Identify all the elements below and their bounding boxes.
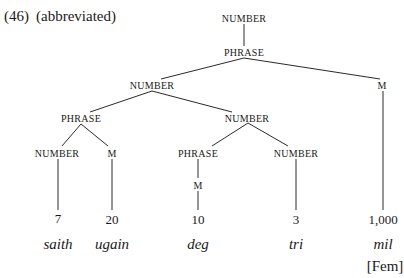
- node-m-right: M: [377, 80, 386, 91]
- leaf-word: tri: [289, 236, 303, 253]
- leaf-numeral: 10: [192, 212, 205, 228]
- leaf-word: ugain: [95, 236, 129, 253]
- node-m-mid: M: [193, 180, 202, 191]
- node-number-ll: NUMBER: [35, 148, 80, 159]
- node-root-number: NUMBER: [222, 13, 267, 24]
- leaf-numeral: 7: [55, 211, 62, 227]
- node-number-mr: NUMBER: [274, 148, 319, 159]
- leaf-word: deg: [187, 236, 209, 253]
- node-phrase-left: PHRASE: [61, 113, 101, 124]
- leaf-numeral: 3: [293, 212, 300, 228]
- node-m-ll: M: [107, 148, 116, 159]
- leaf-word: saith: [43, 236, 72, 253]
- gender-annotation: [Fem]: [367, 258, 404, 275]
- node-number-mid: NUMBER: [225, 113, 270, 124]
- node-phrase-mid: PHRASE: [178, 148, 218, 159]
- node-number-left: NUMBER: [130, 80, 175, 91]
- leaf-numeral: 1,000: [368, 212, 397, 228]
- leaf-word: mil: [373, 236, 392, 253]
- node-phrase-top: PHRASE: [224, 47, 264, 58]
- leaf-numeral: 20: [106, 212, 119, 228]
